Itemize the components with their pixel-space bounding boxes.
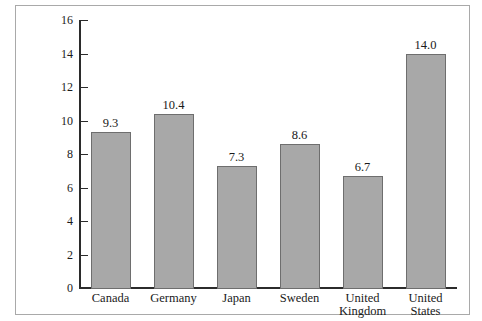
x-axis-category-label: United States [395, 292, 457, 318]
y-tick-label: 2 [44, 249, 73, 261]
y-tick-label-text: 10 [44, 115, 73, 127]
y-tick-label: 16 [44, 14, 73, 26]
bar-value-label: 14.0 [396, 39, 456, 52]
x-axis-category-label: Canada [80, 292, 142, 305]
y-tick-mark [81, 54, 88, 55]
y-tick-mark [81, 288, 88, 289]
bar-value-label: 6.7 [333, 161, 393, 174]
x-axis-category-label: Japan [206, 292, 268, 305]
bar [154, 114, 194, 289]
bar-value-label: 9.3 [81, 117, 141, 130]
y-tick-label-text: 14 [44, 48, 73, 60]
bar [343, 176, 383, 289]
y-tick-mark [81, 221, 88, 222]
bar [91, 132, 131, 289]
bar-value-label: 8.6 [270, 129, 330, 142]
y-tick-label: 14 [44, 48, 73, 60]
y-tick-label-text: 16 [44, 14, 73, 26]
y-tick-label-text: 12 [44, 81, 73, 93]
bar-value-label: 7.3 [207, 151, 267, 164]
y-tick-mark [81, 255, 88, 256]
y-tick-mark [81, 87, 88, 88]
y-tick-label: 8 [44, 148, 73, 160]
y-tick-label: 6 [44, 182, 73, 194]
x-axis-line [79, 287, 457, 289]
plot-area: 0246810121416 9.310.47.38.66.714.0 Canad… [0, 0, 482, 321]
y-tick-label: 10 [44, 115, 73, 127]
y-tick-label-text: 8 [44, 148, 73, 160]
bar [217, 166, 257, 289]
y-tick-label-text: 4 [44, 215, 73, 227]
y-tick-label: 12 [44, 81, 73, 93]
x-axis-category-label: United Kingdom [332, 292, 394, 318]
x-axis-category-label: Germany [143, 292, 205, 305]
y-tick-label-text: 2 [44, 249, 73, 261]
bar [406, 54, 446, 290]
y-tick-mark [81, 188, 88, 189]
y-tick-mark [81, 154, 88, 155]
bar-value-label: 10.4 [144, 99, 204, 112]
y-tick-label-text: 6 [44, 182, 73, 194]
y-tick-label-text: 0 [44, 282, 73, 294]
x-axis-category-label: Sweden [269, 292, 331, 305]
y-tick-label: 0 [44, 282, 73, 294]
figure: 0246810121416 9.310.47.38.66.714.0 Canad… [0, 0, 482, 321]
y-tick-label: 4 [44, 215, 73, 227]
bar [280, 144, 320, 289]
y-tick-mark [81, 20, 88, 21]
